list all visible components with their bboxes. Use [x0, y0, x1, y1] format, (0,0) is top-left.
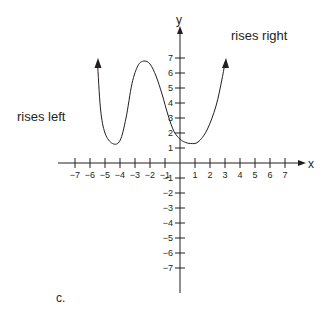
x-tick-label: 1 [192, 170, 197, 180]
y-tick-label: 2 [168, 128, 173, 138]
x-tick-label: 6 [267, 170, 272, 180]
x-tick-label: −3 [130, 170, 140, 180]
x-tick-label: −7 [70, 170, 80, 180]
y-tick-label: 4 [168, 98, 173, 108]
x-tick-label: −2 [145, 170, 155, 180]
y-tick-label: −6 [163, 248, 173, 258]
x-tick-label: 4 [237, 170, 242, 180]
figure-caption: c. [56, 291, 65, 305]
y-tick-label: −7 [163, 263, 173, 273]
y-tick-label: −5 [163, 233, 173, 243]
x-tick-label: −4 [115, 170, 125, 180]
rises-left-annotation: rises left [17, 109, 66, 124]
y-tick-label: −2 [163, 188, 173, 198]
x-tick-label: 2 [207, 170, 212, 180]
y-tick-label: 1 [168, 143, 173, 153]
x-axis-label: x [308, 157, 314, 171]
x-tick-label: 3 [222, 170, 227, 180]
polynomial-curve [98, 61, 226, 144]
y-tick-label: −1 [163, 173, 173, 183]
x-tick-label: −6 [85, 170, 95, 180]
rises-right-annotation: rises right [231, 28, 288, 43]
x-axis-ticks: −7−6−5−4−3−2−11234567 [70, 158, 288, 180]
x-tick-label: 7 [282, 170, 287, 180]
right-arrow-icon [222, 58, 229, 68]
left-arrow-icon [95, 58, 102, 68]
polynomial-graph: −7−6−5−4−3−2−11234567 7654321−1−2−3−4−5−… [0, 0, 325, 312]
y-tick-label: −3 [163, 203, 173, 213]
y-tick-label: −4 [163, 218, 173, 228]
x-tick-label: 5 [252, 170, 257, 180]
y-axis-label: y [176, 13, 182, 27]
y-tick-label: 6 [168, 68, 173, 78]
y-tick-label: 5 [168, 83, 173, 93]
x-tick-label: −5 [100, 170, 110, 180]
y-tick-label: 7 [168, 53, 173, 63]
